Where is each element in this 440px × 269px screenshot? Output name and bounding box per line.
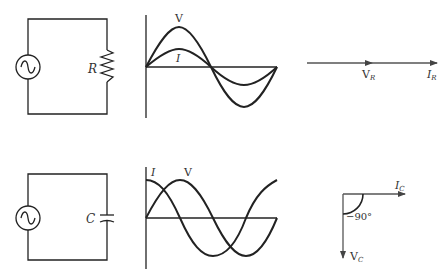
capacitor-phasor [343, 194, 405, 258]
phasor-vr-label: VR [361, 68, 376, 82]
diagram-canvas: R V I VR IR C I V IC −90° VC [0, 0, 440, 269]
capacitor-waveform-graph [146, 167, 277, 269]
voltage-label: V [183, 166, 193, 179]
current-label: I [150, 166, 156, 179]
capacitor-label: C [86, 212, 95, 226]
capacitor-circuit [16, 174, 114, 260]
phasor-vc-label: VC [349, 250, 364, 264]
phase-angle-label: −90° [346, 211, 372, 222]
voltage-label: V [174, 12, 184, 25]
resistor-label: R [87, 62, 97, 76]
phasor-ir-label: IR [426, 68, 437, 82]
current-label: I [175, 52, 181, 65]
resistor-circuit [16, 19, 113, 114]
resistor-icon [101, 50, 113, 82]
ac-circuit-diagram: R V I VR IR C I V IC −90° VC [0, 0, 440, 269]
phasor-ic-label: IC [394, 179, 405, 193]
resistor-waveform-graph [146, 15, 277, 118]
capacitor-icon [100, 215, 114, 222]
